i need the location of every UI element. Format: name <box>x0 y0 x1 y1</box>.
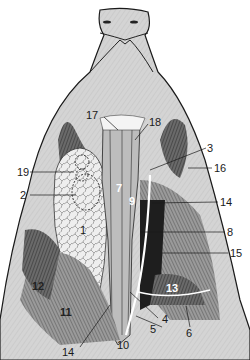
label-11: 11 <box>60 307 72 318</box>
label-8: 8 <box>227 227 233 238</box>
label-1: 1 <box>80 225 86 236</box>
label-3: 3 <box>207 143 213 154</box>
anatomical-figure: 17 18 3 16 19 2 7 9 14 1 8 15 12 13 11 4… <box>0 0 250 360</box>
label-9: 9 <box>129 196 135 207</box>
label-2: 2 <box>20 190 26 201</box>
label-4: 4 <box>162 314 168 325</box>
label-5: 5 <box>150 324 156 335</box>
label-6: 6 <box>186 328 192 339</box>
neck-anatomy-drawing <box>0 0 250 360</box>
label-10: 10 <box>117 340 129 351</box>
label-7: 7 <box>116 183 122 194</box>
label-13: 13 <box>166 283 178 294</box>
label-15: 15 <box>230 248 242 259</box>
label-16: 16 <box>214 163 226 174</box>
label-14-lower: 14 <box>62 347 74 358</box>
label-12: 12 <box>32 281 44 292</box>
label-18: 18 <box>149 117 161 128</box>
label-19: 19 <box>17 167 29 178</box>
label-14-upper: 14 <box>220 197 232 208</box>
label-17: 17 <box>86 110 98 121</box>
